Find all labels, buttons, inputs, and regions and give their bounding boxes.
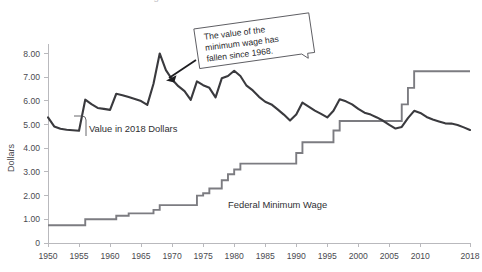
x-tick-label: 1980 [225, 251, 244, 261]
y-tick-label: 8.00 [23, 49, 40, 59]
x-tick-label: 1975 [194, 251, 213, 261]
x-axis-ticks: 1950195519601965197019751980198519901995… [38, 243, 479, 261]
series-label-real: Value in 2018 Dollars [89, 123, 178, 134]
annotation-arrow-line [169, 60, 196, 78]
series-label-nominal: Federal Minimum Wage [228, 199, 327, 210]
x-tick-label: 1990 [287, 251, 306, 261]
x-tick-label: 2018 [460, 251, 479, 261]
figure-root: FIGURE 6-4U.S. Minimum Wage in Nominal a… [0, 0, 482, 272]
x-tick-label: 1965 [132, 251, 151, 261]
annotation-callout: The value of the minimum wage has fallen… [166, 13, 315, 83]
y-tick-label: 5.00 [23, 120, 40, 130]
y-tick-label: 7.00 [23, 72, 40, 82]
x-tick-label: 1970 [163, 251, 182, 261]
y-tick-label: 1.00 [23, 214, 40, 224]
x-tick-label: 2005 [380, 251, 399, 261]
y-tick-label: 0 [35, 238, 40, 248]
minimum-wage-chart: Dollars 8.007.006.005.004.003.002.001.00… [0, 0, 482, 272]
x-tick-label: 1955 [69, 251, 88, 261]
y-tick-label: 2.00 [23, 191, 40, 201]
y-tick-label: 3.00 [23, 167, 40, 177]
series-value-in-2018-dollars [48, 53, 470, 130]
x-tick-label: 1960 [100, 251, 119, 261]
y-axis-title: Dollars [6, 144, 16, 173]
x-tick-label: 2000 [349, 251, 368, 261]
y-tick-label: 6.00 [23, 96, 40, 106]
x-tick-label: 1995 [318, 251, 337, 261]
y-axis-ticks: 8.007.006.005.004.003.002.001.000 [23, 49, 48, 249]
x-tick-label: 1985 [256, 251, 275, 261]
y-tick-label: 4.00 [23, 143, 40, 153]
x-tick-label: 1950 [38, 251, 57, 261]
x-tick-label: 2010 [411, 251, 430, 261]
